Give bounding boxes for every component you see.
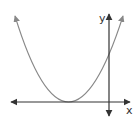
parabola-curve bbox=[15, 16, 123, 102]
parabola-diagram: y x bbox=[0, 0, 136, 119]
y-axis-label: y bbox=[99, 12, 106, 25]
graph-svg: y x bbox=[0, 0, 136, 119]
x-axis-label: x bbox=[126, 104, 133, 117]
